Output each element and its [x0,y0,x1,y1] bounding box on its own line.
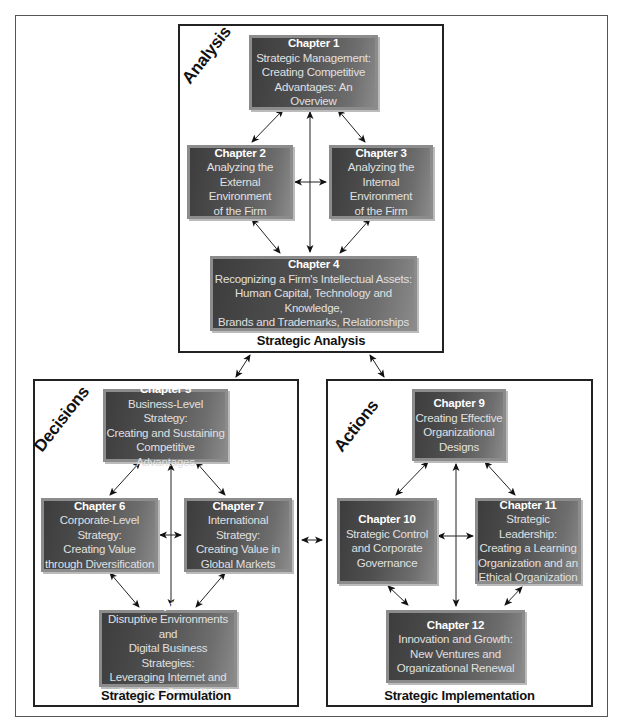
chapter-title: Analyzing the External Environment of th… [190,160,290,218]
chapter-box-4[interactable]: Chapter 4 Recognizing a Firm's Intellect… [210,256,417,331]
chapter-title: Disruptive Environments and Digital Busi… [102,612,234,699]
chapter-box-8[interactable]: Chapter 8 Disruptive Environments and Di… [99,610,237,687]
chapter-title: Strategic Control and Corporate Governan… [340,527,434,571]
chapter-title: Strategic Leadership: Creating a Learnin… [478,512,578,585]
chapter-box-1[interactable]: Chapter 1 Strategic Management: Creating… [249,35,378,110]
chapter-box-7[interactable]: Chapter 7 International Strategy: Creati… [184,498,292,572]
caption-strategic-analysis: Strategic Analysis [178,333,444,348]
chapter-title: Analyzing the Internal Environment of th… [332,160,430,218]
caption-strategic-implementation: Strategic Implementation [326,688,593,703]
chapter-box-9[interactable]: Chapter 9 Creating Effective Organizatio… [412,389,506,461]
chapter-box-5[interactable]: Chapter 5 Business-Level Strategy: Creat… [103,389,228,462]
chapter-number: Chapter 9 [415,396,503,411]
chapter-box-6[interactable]: Chapter 6 Corporate-Level Strategy: Crea… [41,498,158,572]
chapter-title: Corporate-Level Strategy: Creating Value… [44,513,155,571]
chapter-title: Creating Effective Organizational Design… [415,411,503,455]
chapter-number: Chapter 12 [389,618,522,633]
chapter-title: International Strategy: Creating Value i… [187,513,289,571]
chapter-number: Chapter 7 [187,499,289,514]
chapter-title: Recognizing a Firm's Intellectual Assets… [213,272,414,330]
chapter-box-3[interactable]: Chapter 3 Analyzing the Internal Environ… [329,145,433,219]
chapter-number: Chapter 6 [44,499,155,514]
chapter-box-12[interactable]: Chapter 12 Innovation and Growth: New Ve… [386,610,525,683]
chapter-title: Innovation and Growth: New Ventures and … [389,632,522,676]
caption-strategic-formulation: Strategic Formulation [33,688,299,703]
chapter-number: Chapter 5 [106,382,225,397]
chapter-box-10[interactable]: Chapter 10 Strategic Control and Corpora… [337,498,437,584]
chapter-number: Chapter 1 [252,36,375,51]
chapter-number: Chapter 4 [213,257,414,272]
chapter-title: Business-Level Strategy: Creating and Su… [106,397,225,470]
chapter-box-11[interactable]: Chapter 11 Strategic Leadership: Creatin… [475,498,581,584]
chapter-number: Chapter 8 [102,598,234,613]
chapter-number: Chapter 10 [340,512,434,527]
chapter-number: Chapter 2 [190,146,290,161]
chapter-title: Strategic Management: Creating Competiti… [252,51,375,109]
chapter-number: Chapter 11 [478,498,578,513]
chapter-number: Chapter 3 [332,146,430,161]
chapter-box-2[interactable]: Chapter 2 Analyzing the External Environ… [187,145,293,219]
